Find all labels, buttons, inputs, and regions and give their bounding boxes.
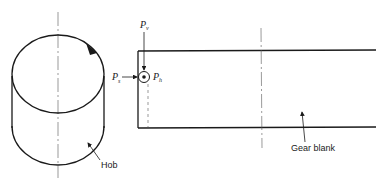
gear-blank-label: Gear blank <box>291 143 336 153</box>
gear-blank-top-edge <box>138 50 376 51</box>
ph-label: Ph <box>152 71 162 83</box>
hob-cylinder <box>12 12 104 178</box>
gear-blank-axis-line <box>261 28 262 148</box>
gear-blank <box>138 28 376 148</box>
pv-label: Pv <box>139 19 149 31</box>
ph-force-dot-icon <box>142 75 146 79</box>
gear-blank-bottom-edge <box>138 127 376 128</box>
hobbing-force-diagram: Hob Gear blank Pv Ps Ph <box>0 0 376 186</box>
hob-label: Hob <box>101 160 118 170</box>
ps-label: Ps <box>111 71 121 84</box>
rotation-arrow-icon <box>86 43 97 55</box>
